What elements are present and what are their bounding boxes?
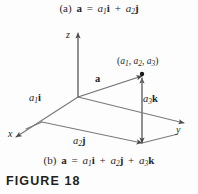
vector-a-arrow [78, 76, 142, 97]
component-x-label: a1i [29, 92, 41, 106]
component-z-label: a3k [143, 93, 158, 107]
vector-a-label: a [95, 73, 100, 84]
x-axis-label: x [8, 128, 12, 139]
caption-b-part-letter: (b) [44, 154, 57, 166]
caption-b-vector: a [61, 154, 67, 166]
component-x-unit: i [38, 92, 41, 103]
caption-a-part-letter: (a) [59, 2, 71, 14]
projection-edge-front [42, 122, 142, 143]
caption-a-plus1: + [115, 2, 121, 14]
z-axis-label: z [66, 29, 70, 40]
terminal-point-label: (a1, a2, a3) [117, 56, 158, 69]
caption-b-equals: = [71, 154, 77, 166]
coordinate-diagram [0, 22, 198, 154]
caption-b-term3-unit: k [148, 154, 154, 166]
figure-number-label: FIGURE 18 [6, 174, 81, 188]
caption-b-plus1: + [99, 154, 105, 166]
component-z-unit: k [152, 93, 158, 104]
component-y-unit: j [82, 135, 86, 146]
caption-a-term2-unit: j [135, 2, 139, 14]
y-axis-line [78, 97, 184, 123]
component-y-label: a2j [73, 135, 86, 149]
terminal-point-dot [140, 72, 144, 76]
caption-part-b: (b) a = a1i + a2j + a3k [0, 154, 198, 170]
projection-edge-left [26, 122, 42, 129]
caption-part-a: (a) a = a1i + a2j [0, 2, 198, 18]
figure-container: (a) a = a1i + a2j [0, 0, 198, 194]
point-close-paren: ) [155, 56, 158, 66]
y-axis-label: y [176, 124, 180, 135]
caption-a-equals: = [87, 2, 93, 14]
x-axis-line [16, 97, 78, 137]
projection-edge-right [142, 134, 178, 143]
